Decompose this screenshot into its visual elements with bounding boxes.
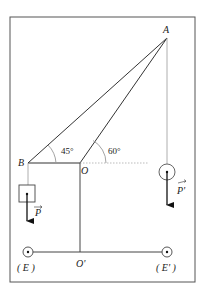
label-B: B (18, 157, 24, 168)
angle-label-60: 60° (108, 146, 121, 156)
angle-arc-45 (48, 145, 56, 163)
angle-arc-60 (93, 141, 106, 164)
label-E: ( E ) (17, 262, 35, 274)
label-P: P (34, 207, 41, 218)
label-O: O (81, 165, 88, 176)
label-O-prime: O' (76, 258, 86, 269)
diagram-canvas: 45° 60° P P' A B O O' ( E ) ( E' ) (0, 0, 205, 298)
pivot-E-prime-dot (166, 251, 168, 253)
string-AO (80, 38, 167, 163)
pivot-E-dot (27, 251, 29, 253)
label-A: A (162, 24, 170, 35)
label-E-prime: ( E' ) (156, 262, 177, 274)
label-P-prime: P' (176, 185, 186, 196)
angle-label-45: 45° (61, 146, 74, 156)
